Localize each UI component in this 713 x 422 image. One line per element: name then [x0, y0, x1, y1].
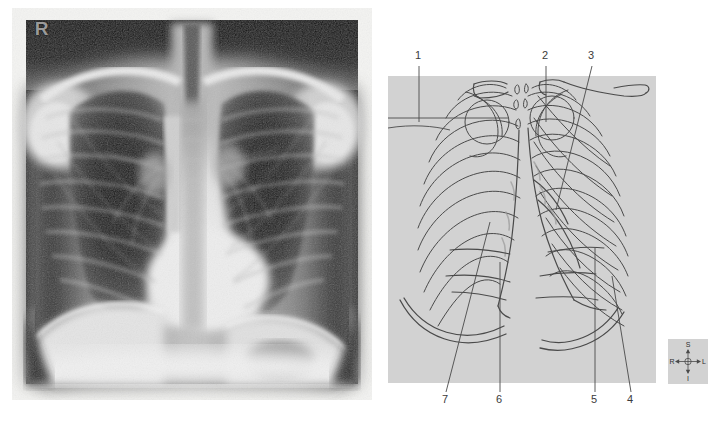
compass-label-inferior: I [687, 375, 689, 382]
scapula-right-sketch [465, 92, 509, 157]
leader-7-stem [446, 222, 490, 392]
clavicle-right-sketch [473, 81, 508, 98]
chest-radiograph-panel: R [12, 8, 372, 400]
compass-label-left: L [702, 358, 706, 365]
schematic-panel: 1 2 3 4 5 6 7 [388, 0, 658, 422]
callout-label-5: 5 [591, 394, 597, 405]
callout-label-3: 3 [588, 50, 594, 61]
orientation-compass: S I R L [668, 339, 708, 384]
ribs-right-sketch [418, 84, 520, 326]
schematic-line-drawing [388, 0, 658, 422]
mediastinum-sketch [498, 128, 606, 318]
callout-label-6: 6 [496, 394, 502, 405]
chest-radiograph-image [12, 8, 372, 400]
radiograph-side-marker: R [28, 16, 54, 42]
leader-1-arm-2 [388, 126, 450, 130]
clavicle-left-sketch [539, 80, 649, 97]
compass-label-superior: S [686, 341, 691, 348]
compass-graphic: S I R L [668, 339, 708, 384]
callout-label-1: 1 [415, 50, 421, 61]
callout-label-4: 4 [627, 394, 633, 405]
compass-label-right: R [669, 358, 674, 365]
figure-root: R [0, 0, 713, 422]
callout-label-2: 2 [542, 50, 548, 61]
diaphragm-sketch [400, 298, 624, 350]
vertebrae-sketch [514, 84, 529, 129]
leader-4-stem [612, 276, 631, 392]
callout-label-7: 7 [442, 394, 448, 405]
